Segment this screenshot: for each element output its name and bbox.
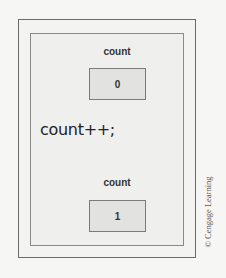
- increment-statement: count++;: [40, 120, 115, 139]
- variable-value-after: 1: [115, 211, 121, 222]
- copyright-credit: © Cengage Learning: [203, 176, 213, 247]
- variable-box-after: 1: [89, 200, 146, 232]
- variable-box-before: 0: [89, 68, 146, 100]
- variable-label-after: count: [4, 177, 226, 188]
- variable-value-before: 0: [115, 79, 121, 90]
- variable-label-before: count: [4, 46, 226, 57]
